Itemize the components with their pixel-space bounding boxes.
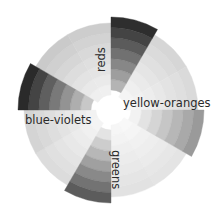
label-blue-violets: blue-violets — [25, 113, 92, 127]
label-yellow-oranges: yellow-oranges — [123, 96, 211, 110]
label-greens: greens — [109, 150, 123, 189]
color-wheel-diagram: reds yellow-oranges blue-violets greens — [0, 0, 217, 216]
label-reds: reds — [94, 47, 108, 72]
